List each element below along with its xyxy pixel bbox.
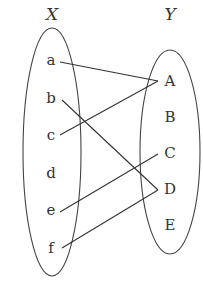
mapping-diagram: X Y a b c d e f A B C D E <box>0 0 203 285</box>
element-f: f <box>48 239 55 257</box>
set-x-label: X <box>44 4 59 24</box>
element-E: E <box>165 216 176 234</box>
element-a: a <box>47 51 56 69</box>
element-e: e <box>47 201 56 219</box>
element-C: C <box>164 144 175 162</box>
element-A: A <box>164 72 176 90</box>
set-y-elements: A B C D E <box>164 72 176 234</box>
element-B: B <box>164 108 175 126</box>
set-x-elements: a b c d e f <box>46 51 56 257</box>
edge-b-D <box>62 100 158 190</box>
set-y-label: Y <box>164 4 177 24</box>
mapping-edges <box>60 62 158 248</box>
element-c: c <box>47 126 55 144</box>
element-d: d <box>46 164 56 182</box>
element-b: b <box>46 89 56 107</box>
edge-a-A <box>60 62 158 81</box>
element-D: D <box>164 180 176 198</box>
edge-e-C <box>60 154 158 212</box>
